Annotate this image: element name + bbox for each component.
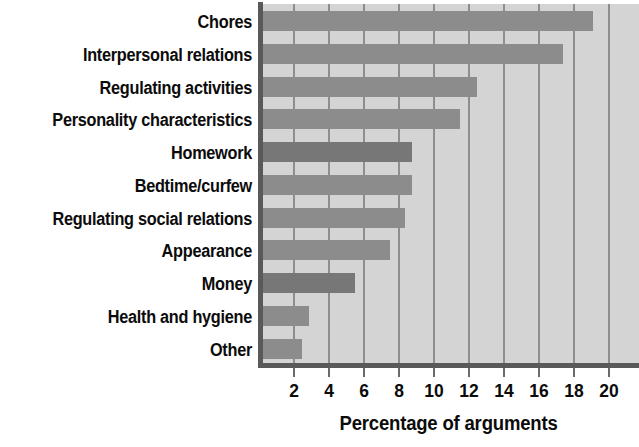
- x-axis-tick: [538, 368, 540, 377]
- x-axis-tick-label: 8: [381, 380, 418, 402]
- bar-fill: [260, 339, 302, 359]
- category-label: Regulating social relations: [18, 209, 252, 229]
- category-label: Homework: [18, 143, 252, 163]
- category-axis-labels: Chores Interpersonal relations Regulatin…: [0, 5, 252, 365]
- bar-fill: [260, 44, 563, 64]
- y-axis-line: [258, 2, 263, 368]
- bar-fill: [260, 142, 412, 162]
- x-axis-tick-label: 14: [486, 380, 523, 402]
- category-label: Regulating activities: [18, 78, 252, 98]
- x-axis-tick-label: 16: [521, 380, 558, 402]
- x-axis-tick-label: 4: [311, 380, 348, 402]
- x-axis-tick-label: 10: [416, 380, 453, 402]
- bar-fill: [260, 11, 593, 31]
- plot-area: [258, 4, 639, 366]
- category-label: Personality characteristics: [18, 110, 252, 130]
- bar: [260, 208, 405, 228]
- bar: [260, 240, 390, 260]
- category-label: Chores: [18, 12, 252, 32]
- bar: [260, 109, 460, 129]
- category-label: Interpersonal relations: [18, 45, 252, 65]
- bar: [260, 306, 309, 326]
- bars-group: [258, 4, 639, 366]
- x-axis-tick: [433, 368, 435, 377]
- bar-fill: [260, 208, 405, 228]
- x-axis-tick: [363, 368, 365, 377]
- bar: [260, 175, 412, 195]
- bar-fill: [260, 240, 390, 260]
- bar: [260, 11, 593, 31]
- x-axis-tick: [573, 368, 575, 377]
- x-axis-tick: [398, 368, 400, 377]
- x-axis-tick-label: 2: [276, 380, 313, 402]
- bar-fill: [260, 175, 412, 195]
- x-axis-tick-label: 18: [556, 380, 593, 402]
- category-label: Appearance: [18, 241, 252, 261]
- bar: [260, 142, 412, 162]
- bar-fill: [260, 306, 309, 326]
- bar: [260, 77, 477, 97]
- bar-fill: [260, 109, 460, 129]
- x-axis-tick: [328, 368, 330, 377]
- bar-fill: [260, 273, 355, 293]
- category-label: Money: [18, 274, 252, 294]
- category-label: Other: [18, 340, 252, 360]
- category-label: Health and hygiene: [18, 307, 252, 327]
- bar: [260, 339, 302, 359]
- bar-fill: [260, 77, 477, 97]
- x-axis-tick: [503, 368, 505, 377]
- bar-chart: Chores Interpersonal relations Regulatin…: [0, 0, 639, 447]
- x-axis-tick: [293, 368, 295, 377]
- category-label: Bedtime/curfew: [18, 176, 252, 196]
- x-axis-line: [258, 363, 639, 368]
- x-axis-tick-label: 12: [451, 380, 488, 402]
- x-axis-tick-label: 20: [591, 380, 628, 402]
- x-axis-tick-label: 6: [346, 380, 383, 402]
- x-axis-title: Percentage of arguments: [268, 412, 630, 435]
- x-axis-tick: [468, 368, 470, 377]
- bar: [260, 273, 355, 293]
- x-axis-tick: [608, 368, 610, 377]
- bar: [260, 44, 563, 64]
